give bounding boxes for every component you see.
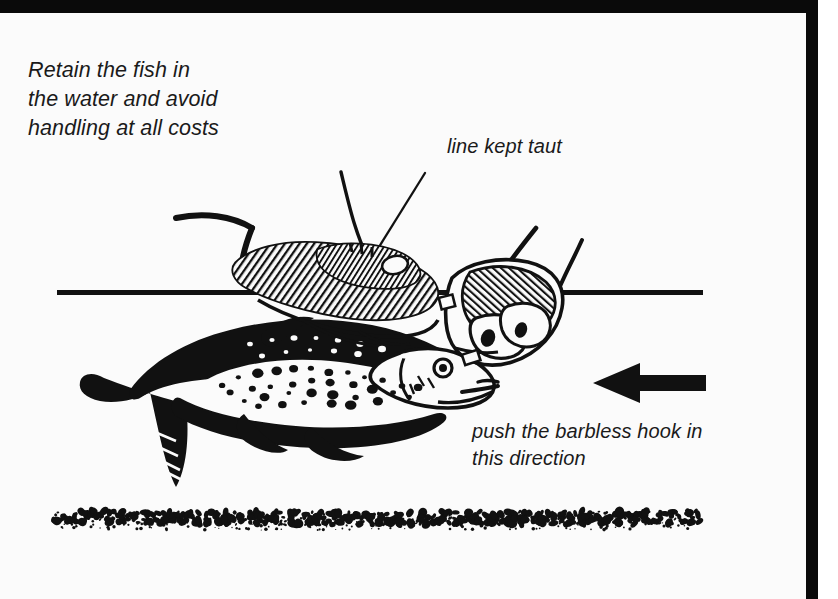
page-border-top bbox=[0, 0, 818, 13]
caption-push-barbless-hook: push the barbless hook in this direction bbox=[472, 418, 702, 472]
page-outer-margin bbox=[818, 0, 838, 599]
caption-retain-fish-in-water: Retain the fish in the water and avoid h… bbox=[28, 56, 219, 143]
caption-line-kept-taut: line kept taut bbox=[447, 133, 562, 160]
illustration-page: Retain the fish in the water and avoid h… bbox=[0, 0, 838, 599]
page-border-right bbox=[806, 0, 818, 599]
